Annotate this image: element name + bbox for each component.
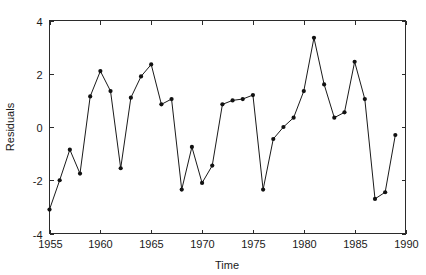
y-axis-tick-labels: -4-2024 (33, 16, 43, 241)
data-point-marker (190, 145, 194, 149)
data-point-marker (169, 97, 173, 101)
data-point-marker (271, 137, 275, 141)
data-point-marker (68, 148, 72, 152)
x-axis-ticks (51, 21, 407, 234)
data-point-marker (292, 116, 296, 120)
data-point-marker (88, 94, 92, 98)
data-point-marker (251, 93, 255, 97)
data-point-marker (322, 82, 326, 86)
plot-axes-frame (50, 21, 406, 234)
residuals-time-series-chart: 19551960196519701975198019851990 -4-2024… (0, 0, 426, 275)
y-tick-label: 0 (36, 122, 42, 134)
data-point-marker (149, 62, 153, 66)
data-point-marker (210, 164, 214, 168)
data-point-marker (373, 197, 377, 201)
data-point-marker (159, 102, 163, 106)
x-axis-tick-labels: 19551960196519701975198019851990 (38, 238, 418, 250)
x-tick-label: 1960 (88, 238, 112, 250)
data-point-marker (261, 187, 265, 191)
data-point-marker (200, 181, 204, 185)
chart-figure: 19551960196519701975198019851990 -4-2024… (0, 0, 426, 275)
data-point-marker (241, 97, 245, 101)
data-point-marker (180, 187, 184, 191)
data-point-marker (342, 110, 346, 114)
data-point-marker (47, 207, 51, 211)
data-point-marker (119, 166, 123, 170)
data-point-marker (98, 69, 102, 73)
data-point-marker (393, 133, 397, 137)
x-tick-label: 1990 (394, 238, 418, 250)
data-point-marker (129, 96, 133, 100)
x-tick-label: 1980 (292, 238, 316, 250)
x-tick-label: 1985 (343, 238, 367, 250)
data-point-marker (220, 102, 224, 106)
residuals-line (50, 38, 396, 210)
data-point-marker (332, 116, 336, 120)
y-axis-ticks (50, 22, 406, 235)
data-point-marker (363, 97, 367, 101)
data-point-marker (383, 190, 387, 194)
x-tick-label: 1975 (241, 238, 265, 250)
data-point-marker (302, 89, 306, 93)
data-point-marker (78, 171, 82, 175)
residuals-markers (47, 36, 397, 212)
data-point-marker (139, 74, 143, 78)
x-axis-title: Time (215, 259, 239, 271)
x-tick-label: 1965 (139, 238, 163, 250)
y-tick-label: -4 (33, 229, 43, 241)
y-tick-label: 4 (36, 16, 42, 28)
x-tick-label: 1970 (190, 238, 214, 250)
data-point-marker (230, 98, 234, 102)
y-tick-label: -2 (33, 175, 43, 187)
data-point-marker (108, 89, 112, 93)
data-point-marker (353, 60, 357, 64)
y-tick-label: 2 (36, 69, 42, 81)
data-point-marker (281, 125, 285, 129)
data-point-marker (58, 178, 62, 182)
y-axis-title: Residuals (4, 102, 16, 151)
data-point-marker (312, 36, 316, 40)
